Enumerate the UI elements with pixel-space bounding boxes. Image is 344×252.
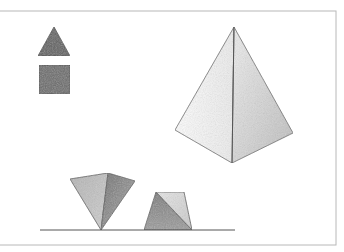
pyramid-shape <box>175 27 293 163</box>
pyramid-right-face <box>232 27 293 163</box>
inverted-pyramid-shape <box>70 173 135 230</box>
small-square-icon <box>39 65 70 94</box>
trapezoid-shape <box>144 192 192 230</box>
geometric-solids-illustration <box>0 0 344 252</box>
pyramid-left-face <box>175 27 234 163</box>
drawing-canvas <box>0 0 344 252</box>
small-triangle-icon <box>38 27 70 56</box>
